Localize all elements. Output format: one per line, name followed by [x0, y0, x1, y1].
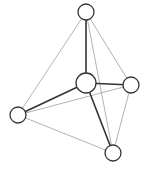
- node-right: [123, 77, 139, 93]
- node-top: [78, 4, 94, 20]
- edges-layer: [18, 12, 131, 153]
- graph-diagram: [0, 0, 151, 175]
- node-left: [10, 107, 26, 123]
- node-bottom: [105, 145, 121, 161]
- edge-right-bottom: [113, 85, 131, 153]
- edge-left-bottom: [18, 115, 113, 153]
- node-center: [76, 73, 96, 93]
